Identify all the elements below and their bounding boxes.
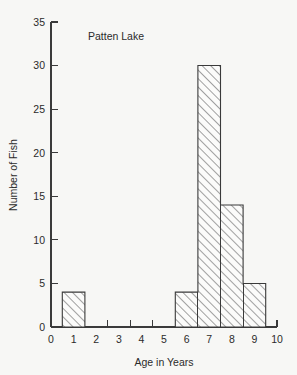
x-axis-title: Age in Years — [135, 356, 194, 368]
y-tick-label-35: 35 — [33, 16, 45, 28]
x-tick-label-3: 3 — [116, 333, 122, 345]
x-tick-label-9: 9 — [251, 333, 257, 345]
x-tick-label-2: 2 — [93, 333, 99, 345]
x-tick-label-10: 10 — [271, 333, 283, 345]
x-tick-label-7: 7 — [206, 333, 212, 345]
x-tick-label-0: 0 — [48, 333, 54, 345]
bar-group-1-to-1 — [62, 292, 85, 327]
chart-title: Patten Lake — [88, 30, 144, 42]
x-tick-label-4: 4 — [138, 333, 144, 345]
y-tick-label-15: 15 — [33, 190, 45, 202]
x-tick-label-8: 8 — [229, 333, 235, 345]
x-tick-label-6: 6 — [184, 333, 190, 345]
y-tick-label-10: 10 — [33, 234, 45, 246]
y-tick-label-5: 5 — [39, 277, 45, 289]
y-tick-label-30: 30 — [33, 59, 45, 71]
histogram-chart: 05101520253035 012345678910 Patten Lake … — [0, 0, 297, 375]
y-tick-label-20: 20 — [33, 147, 45, 159]
y-tick-label-25: 25 — [33, 103, 45, 115]
y-axis-title: Number of Fish — [7, 139, 19, 211]
chart-canvas: 05101520253035 012345678910 Patten Lake … — [0, 0, 297, 375]
y-tick-label-0: 0 — [39, 321, 45, 333]
x-tick-label-5: 5 — [161, 333, 167, 345]
x-tick-label-1: 1 — [71, 333, 77, 345]
